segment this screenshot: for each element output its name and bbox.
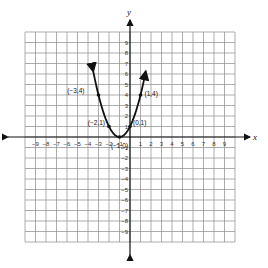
x-tick-label: −9 — [32, 141, 40, 147]
x-tick-label: 6 — [191, 141, 195, 147]
x-tick-label: −8 — [43, 141, 51, 147]
point-label: (1,4) — [145, 90, 158, 98]
point-label: (−3,4) — [67, 87, 84, 95]
point-label: (0,1) — [133, 119, 146, 127]
y-axis-label: y — [126, 7, 131, 17]
x-tick-label: 3 — [160, 141, 164, 147]
point-label: (−1,0) — [111, 142, 128, 150]
point-label: (−2,1) — [88, 119, 105, 127]
x-tick-label: 5 — [181, 141, 185, 147]
data-point — [139, 93, 143, 97]
x-tick-label: −3 — [95, 141, 103, 147]
y-tick-label: −2 — [121, 155, 129, 161]
y-tick-label: −3 — [121, 166, 129, 172]
y-tick-label: −6 — [121, 197, 129, 203]
x-tick-label: 7 — [202, 141, 206, 147]
x-tick-label: −7 — [53, 141, 61, 147]
x-tick-label: 8 — [212, 141, 216, 147]
data-point — [97, 93, 101, 97]
data-point — [128, 125, 132, 129]
y-tick-label: −8 — [121, 218, 129, 224]
x-tick-label: −4 — [85, 141, 93, 147]
y-tick-label: −4 — [121, 176, 129, 182]
coordinate-plane: xy−9−8−7−6−5−4−3−2−1123456789987654321−1… — [0, 0, 268, 268]
x-tick-label: 9 — [223, 141, 227, 147]
data-point — [107, 125, 111, 129]
y-tick-label: −7 — [121, 208, 129, 214]
y-tick-label: −5 — [121, 187, 129, 193]
x-tick-label: −5 — [74, 141, 82, 147]
data-point — [118, 135, 122, 139]
x-tick-label: 1 — [139, 141, 143, 147]
x-axis-label: x — [252, 132, 257, 142]
y-tick-label: −9 — [121, 229, 129, 235]
x-tick-label: 2 — [149, 141, 153, 147]
x-tick-label: −6 — [64, 141, 72, 147]
x-tick-label: 4 — [170, 141, 174, 147]
